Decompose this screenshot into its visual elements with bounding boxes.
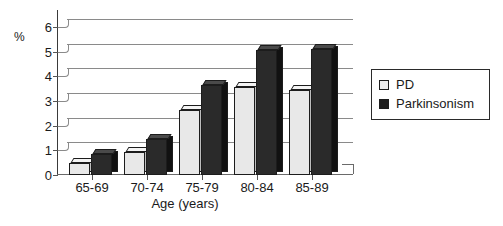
- y-tick-label: 6: [38, 21, 52, 34]
- bar-pd-80-84: [234, 87, 255, 175]
- bar-group: [234, 10, 276, 175]
- bar-parkinsonism-80-84: [256, 50, 277, 175]
- bar-side-face: [332, 46, 338, 172]
- bar-chart-figure: % 0123456 65-6970-7475-7980-8485-89 Age …: [0, 0, 503, 226]
- x-tick-mark: [257, 175, 258, 180]
- bar-side-face: [167, 136, 173, 172]
- bar-top-face: [257, 45, 281, 50]
- bar-parkinsonism-85-89: [311, 49, 332, 175]
- bar-pd-75-79: [179, 110, 200, 175]
- bar-top-face: [92, 149, 116, 154]
- x-tick-label-85-89: 85-89: [282, 180, 342, 195]
- bar-pd-65-69: [69, 163, 90, 175]
- legend-label-pd: PD: [396, 77, 414, 92]
- y-tick-label: 3: [38, 95, 52, 108]
- x-tick-mark: [202, 175, 203, 180]
- bar-front-face: [201, 85, 222, 175]
- bar-pd-85-89: [289, 90, 310, 175]
- bar-top-face: [202, 80, 226, 85]
- y-tick-label: 4: [38, 70, 52, 83]
- legend-item-parkinsonism: Parkinsonism: [379, 94, 483, 113]
- x-tick-mark: [312, 175, 313, 180]
- bar-front-face: [311, 49, 332, 175]
- bar-side-face: [277, 47, 283, 172]
- x-tick-mark: [92, 175, 93, 180]
- x-tick-label-70-74: 70-74: [117, 180, 177, 195]
- chart-legend: PD Parkinsonism: [371, 69, 490, 120]
- bar-front-face: [289, 90, 310, 175]
- bar-front-face: [124, 152, 145, 175]
- bar-front-face: [234, 87, 255, 175]
- bar-parkinsonism-70-74: [146, 139, 167, 175]
- y-tick-label: 1: [38, 144, 52, 157]
- bar-group: [179, 10, 221, 175]
- y-tick-label: 2: [38, 119, 52, 132]
- bar-side-face: [112, 151, 118, 172]
- y-tick-mark: [53, 175, 58, 176]
- bar-front-face: [179, 110, 200, 175]
- bar-group: [69, 10, 111, 175]
- x-tick-label-80-84: 80-84: [227, 180, 287, 195]
- plot-area: 0123456 65-6970-7475-7980-8485-89: [57, 10, 359, 175]
- bar-group: [124, 10, 166, 175]
- bar-front-face: [91, 154, 112, 175]
- bar-group: [289, 10, 331, 175]
- bar-front-face: [256, 50, 277, 175]
- bar-top-face: [147, 134, 171, 139]
- bar-parkinsonism-75-79: [201, 85, 222, 175]
- x-tick-label-65-69: 65-69: [62, 180, 122, 195]
- bar-parkinsonism-65-69: [91, 154, 112, 175]
- x-tick-mark: [147, 175, 148, 180]
- bar-front-face: [69, 163, 90, 175]
- bar-pd-70-74: [124, 152, 145, 175]
- legend-swatch-pd-icon: [379, 80, 389, 90]
- y-tick-label: 5: [38, 45, 52, 58]
- bar-front-face: [146, 139, 167, 175]
- y-tick-label: 0: [38, 169, 52, 182]
- bar-series-layer: [57, 10, 359, 175]
- bar-top-face: [312, 44, 336, 49]
- bar-side-face: [222, 82, 228, 172]
- x-tick-label-75-79: 75-79: [172, 180, 232, 195]
- x-axis-title: Age (years): [0, 196, 370, 211]
- legend-item-pd: PD: [379, 75, 483, 94]
- legend-label-parkinsonism: Parkinsonism: [396, 96, 474, 111]
- y-axis-title: %: [14, 30, 25, 44]
- legend-swatch-parkinsonism-icon: [379, 99, 389, 109]
